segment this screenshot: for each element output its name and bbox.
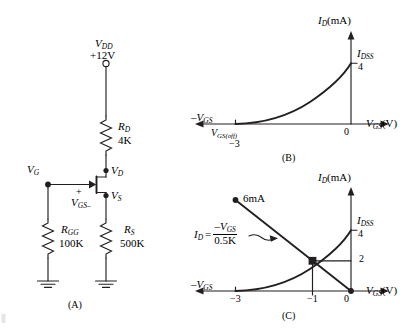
panelC-load-line-endpoint-dot: [233, 197, 239, 203]
panelC-equation-pointer-arrowhead: [270, 235, 278, 242]
panelC-idss-label: IDSS: [357, 215, 374, 228]
panelC-x-axis-label: VGS(V): [366, 285, 397, 298]
panelB-y-axis-label: ID(mA): [318, 15, 351, 28]
panelB-transfer-curve: [236, 63, 352, 124]
resistor-rs-ref-label: RS: [124, 224, 134, 237]
panelB-x-axis-label: VGS(V): [366, 118, 397, 131]
panelB-idss-label: IDSS: [357, 48, 374, 61]
jfet-gate-arrow: [89, 181, 96, 189]
panel-b-label: (B): [282, 153, 295, 163]
panelC-load-line-equation: ID=–VGS0.5K: [194, 221, 237, 246]
panelC-y-axis-label: ID(mA): [318, 172, 351, 185]
panelC-qpoint-marker: [309, 257, 317, 265]
panelC-xtick-zero-label: 0: [344, 294, 349, 304]
vgs-label: VGS–: [71, 197, 91, 210]
panelC-6ma-label: 6mA: [243, 193, 265, 204]
supply-value-label: +12V: [90, 50, 115, 61]
panelB-vgsoff-value-label: −3: [229, 139, 240, 149]
resistor-rs-value-label: 500K: [120, 238, 144, 249]
node-vs-label: VS: [111, 190, 121, 203]
resistor-rs-symbol: [101, 219, 112, 258]
panelB-y-axis-arrow: [348, 31, 355, 40]
resistor-rgg-value-label: 100K: [59, 238, 83, 249]
panelC-xtick-neg1-label: −1: [307, 294, 318, 304]
panelB-idss-value-label: 4: [358, 62, 363, 72]
panel-c-label: (C): [282, 311, 295, 321]
supply-terminal-circle: [103, 60, 109, 66]
resistor-rd-value-label: 4K: [118, 135, 131, 146]
panelC-y-axis-arrow: [348, 187, 355, 196]
panelB-xtick-zero-label: 0: [344, 127, 349, 137]
panelC-neg-axis-label: –VGS: [191, 279, 212, 292]
resistor-rgg-ref-label: RGG: [61, 224, 79, 237]
node-vd-label: VD: [111, 165, 123, 178]
scan-artifact: [2, 314, 6, 323]
figure-jfet-self-bias: VDD +12V RD 4K VG VD VS + VGS– RGG 100K …: [0, 0, 403, 334]
panelC-idss-value-label: 4: [358, 229, 363, 239]
panelC-ytick-2-label: 2: [359, 254, 364, 264]
resistor-rd-symbol: [101, 116, 112, 155]
panelB-neg-axis-label: –VGS: [191, 112, 212, 125]
panel-a-label: (A): [68, 300, 82, 310]
resistor-rd-ref-label: RD: [118, 121, 130, 134]
panelC-xtick-neg3-label: −3: [230, 294, 241, 304]
resistor-rgg-symbol: [43, 219, 54, 258]
node-vg-label: VG: [27, 164, 39, 177]
